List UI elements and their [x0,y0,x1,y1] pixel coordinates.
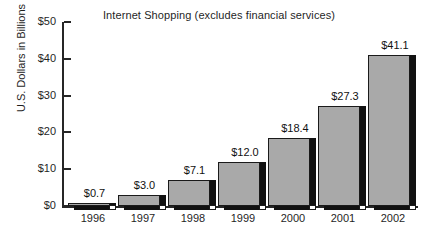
bar[interactable]: $27.3 [318,106,369,206]
bar-base-notch [109,205,116,210]
y-axis-tick-label: $20 [16,125,56,137]
bar[interactable]: $7.1 [168,180,219,206]
y-axis-tick [64,95,71,97]
bar-face [218,162,260,206]
bar[interactable]: $18.4 [268,138,319,206]
y-axis-tick-label: $50 [16,15,56,27]
bar-value-label: $3.0 [134,179,155,191]
y-axis-tick-label: $0 [16,199,56,211]
y-axis-tick [64,58,71,60]
bar-face [368,55,410,206]
x-axis-tick-label: 2002 [368,212,418,224]
x-axis-tick-label: 2001 [318,212,368,224]
chart-title: Internet Shopping (excludes financial se… [0,9,438,21]
y-axis-tick-label: $30 [16,89,56,101]
bar-base-notch [309,205,316,210]
x-axis-tick-label: 2000 [268,212,318,224]
bar-face [268,138,310,206]
bar-value-label: $0.7 [84,187,105,199]
bar-value-label: $18.4 [281,122,309,134]
plot-area: $0$10$20$30$40$50 $0.7$3.0$7.1$12.0$18.4… [62,22,418,208]
bar-base-notch [209,205,216,210]
bar-chart: Internet Shopping (excludes financial se… [0,0,438,242]
bar-face [118,195,160,206]
x-axis-tick-label: 1997 [118,212,168,224]
bar-value-label: $27.3 [331,90,359,102]
bar[interactable]: $41.1 [368,55,419,206]
y-axis-tick [64,131,71,133]
x-axis-tick-label: 1996 [68,212,118,224]
bar-value-label: $12.0 [231,146,259,158]
x-axis-tick-label: 1999 [218,212,268,224]
bar-base-notch [409,205,416,210]
y-axis-tick [64,21,71,23]
bar-value-label: $7.1 [184,164,205,176]
bar[interactable]: $12.0 [218,162,269,206]
bar-face [318,106,360,206]
y-axis-line [62,22,64,208]
bar-face [68,203,110,206]
x-axis-tick-label: 1998 [168,212,218,224]
bar-base-notch [359,205,366,210]
bar-value-label: $41.1 [381,39,409,51]
y-axis-tick-label: $10 [16,162,56,174]
bar[interactable]: $3.0 [118,195,169,206]
bar-base-notch [159,205,166,210]
bar-base-notch [259,205,266,210]
y-axis-tick [64,168,71,170]
bar-face [168,180,210,206]
bar[interactable]: $0.7 [68,203,119,206]
y-axis-tick-label: $40 [16,52,56,64]
